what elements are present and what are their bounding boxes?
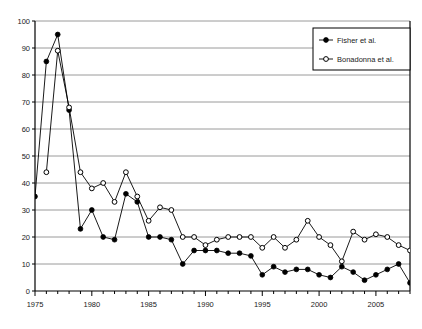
data-point — [260, 245, 265, 250]
data-point — [271, 264, 276, 269]
x-tick-label-2005: 2005 — [368, 300, 385, 309]
data-point — [339, 259, 344, 264]
data-point — [192, 248, 197, 253]
data-point — [385, 267, 390, 272]
data-point — [192, 235, 197, 240]
data-point — [158, 205, 163, 210]
data-point — [237, 235, 242, 240]
data-point — [408, 281, 413, 286]
y-tick-label-90: 90 — [22, 44, 30, 53]
x-tick-label-1995: 1995 — [254, 300, 271, 309]
data-point — [374, 232, 379, 237]
data-point — [362, 237, 367, 242]
data-point — [214, 237, 219, 242]
y-tick-label-30: 30 — [22, 206, 30, 215]
y-tick-label-70: 70 — [22, 98, 30, 107]
y-axis-ticks: 0102030405060708090100 — [17, 17, 35, 296]
legend-marker-open-circle — [324, 57, 329, 62]
data-point — [101, 181, 106, 186]
legend: Fisher et al.Bonadonna et al. — [313, 28, 410, 70]
data-point — [249, 254, 254, 259]
data-point — [78, 227, 83, 232]
data-point — [317, 272, 322, 277]
data-point — [55, 48, 60, 53]
data-point — [169, 237, 174, 242]
data-point — [124, 170, 129, 175]
data-point — [169, 208, 174, 213]
data-point — [283, 245, 288, 250]
data-point — [396, 243, 401, 248]
data-point — [362, 278, 367, 283]
x-tick-label-1975: 1975 — [27, 300, 44, 309]
data-point — [249, 235, 254, 240]
data-point — [146, 235, 151, 240]
data-point — [317, 235, 322, 240]
data-point — [328, 243, 333, 248]
legend-label-1: Bonadonna et al. — [337, 55, 394, 64]
data-point — [89, 186, 94, 191]
data-point — [112, 200, 117, 205]
data-point — [180, 235, 185, 240]
y-tick-label-0: 0 — [26, 287, 30, 296]
data-point — [67, 105, 72, 110]
data-point — [374, 272, 379, 277]
series-line-0 — [35, 35, 410, 283]
data-point — [124, 191, 129, 196]
y-tick-label-40: 40 — [22, 179, 30, 188]
y-tick-label-80: 80 — [22, 71, 30, 80]
x-tick-label-1985: 1985 — [140, 300, 157, 309]
data-point — [55, 32, 60, 37]
x-tick-label-2000: 2000 — [311, 300, 328, 309]
data-point — [271, 235, 276, 240]
data-point — [328, 275, 333, 280]
data-point — [203, 248, 208, 253]
x-tick-label-1980: 1980 — [83, 300, 100, 309]
x-axis-ticks: 1975198019851990199520002005 — [27, 291, 410, 309]
data-point — [385, 235, 390, 240]
data-point — [180, 262, 185, 267]
data-point — [101, 235, 106, 240]
y-tick-label-60: 60 — [22, 125, 30, 134]
data-point — [158, 235, 163, 240]
data-point — [339, 264, 344, 269]
data-point — [89, 208, 94, 213]
x-tick-label-1990: 1990 — [197, 300, 214, 309]
data-point — [214, 248, 219, 253]
data-point — [203, 243, 208, 248]
data-point — [283, 270, 288, 275]
line-chart: 0102030405060708090100197519801985199019… — [0, 0, 422, 329]
data-point — [112, 237, 117, 242]
data-point — [237, 251, 242, 256]
data-point — [351, 270, 356, 275]
data-point — [396, 262, 401, 267]
data-point — [294, 237, 299, 242]
data-point — [44, 170, 49, 175]
data-point — [226, 235, 231, 240]
data-point — [351, 229, 356, 234]
data-point — [78, 170, 83, 175]
y-tick-label-20: 20 — [22, 233, 30, 242]
data-point — [135, 194, 140, 199]
data-point — [305, 218, 310, 223]
data-point — [294, 267, 299, 272]
data-point — [44, 59, 49, 64]
data-point — [33, 194, 38, 199]
data-point — [305, 267, 310, 272]
y-tick-label-100: 100 — [17, 17, 30, 26]
data-point — [260, 272, 265, 277]
data-point — [226, 251, 231, 256]
data-point — [408, 248, 413, 253]
legend-label-0: Fisher et al. — [337, 36, 376, 45]
data-point — [146, 218, 151, 223]
legend-marker-filled-circle — [324, 38, 329, 43]
y-tick-label-50: 50 — [22, 152, 30, 161]
y-tick-label-10: 10 — [22, 260, 30, 269]
chart-container: 0102030405060708090100197519801985199019… — [0, 0, 422, 329]
